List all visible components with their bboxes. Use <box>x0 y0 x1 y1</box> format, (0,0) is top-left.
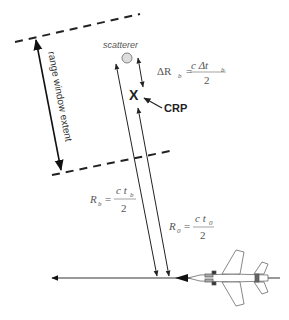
svg-text:R: R <box>168 220 176 232</box>
scatterer-dot <box>122 53 132 63</box>
svg-text:c t: c t <box>116 184 128 196</box>
svg-text:b: b <box>178 72 182 80</box>
svg-text:2: 2 <box>204 74 210 86</box>
svg-text:0: 0 <box>209 219 213 227</box>
svg-text:c t: c t <box>195 212 207 224</box>
svg-text:0: 0 <box>177 227 181 235</box>
svg-text:R: R <box>89 193 97 205</box>
svg-text:=: = <box>105 193 111 205</box>
crp-label: CRP <box>164 102 187 114</box>
range-window-far-edge <box>15 14 140 42</box>
crp-pointer-arrow <box>144 98 162 108</box>
svg-text:b: b <box>98 200 102 208</box>
svg-text:=: = <box>184 220 190 232</box>
crp-marker: X <box>129 87 139 103</box>
rb-equation: R b = c t b 2 <box>89 184 136 214</box>
delta-rb-equation: ΔR b = c Δt b 2 <box>157 59 226 86</box>
aircraft-heading-arrow <box>175 274 188 282</box>
scatterer-label: scatterer <box>103 40 139 50</box>
r0-equation: R 0 = c t 0 2 <box>168 212 214 241</box>
svg-text:ΔR: ΔR <box>157 65 172 77</box>
svg-text:2: 2 <box>121 202 127 214</box>
svg-text:c Δt: c Δt <box>191 59 209 71</box>
svg-text:b: b <box>221 66 225 74</box>
delta-rb-arrow <box>138 58 143 87</box>
range-window-near-edge <box>52 150 175 175</box>
r0-range-line <box>138 108 169 276</box>
aircraft-icon <box>188 250 268 306</box>
svg-text:b: b <box>130 191 134 199</box>
range-window-label: range window extent <box>46 50 74 142</box>
svg-text:2: 2 <box>200 229 206 241</box>
radar-geometry-diagram: range window extent scatterer X CRP ΔR b… <box>0 0 289 320</box>
